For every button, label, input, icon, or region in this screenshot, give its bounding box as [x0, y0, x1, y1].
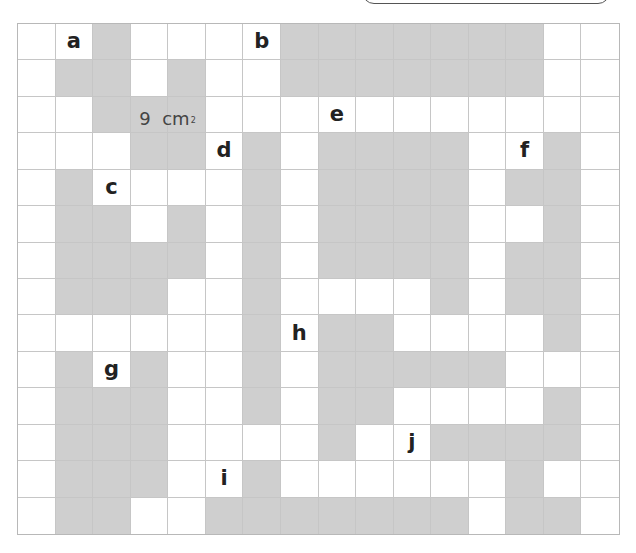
- grid-cell: [506, 315, 544, 351]
- shaded-cell: [168, 133, 206, 169]
- shaded-cell: [93, 461, 131, 497]
- grid-cell: a: [56, 24, 94, 60]
- grid-cell: [168, 24, 206, 60]
- answer-box: [362, 0, 610, 4]
- shaded-cell: [93, 388, 131, 424]
- shaded-cell: [544, 388, 582, 424]
- shaded-cell: [319, 170, 357, 206]
- grid-cell: [281, 97, 319, 133]
- shaded-cell: [431, 425, 469, 461]
- shaded-cell: [469, 425, 507, 461]
- grid-cell: e: [319, 97, 357, 133]
- grid-cell: [431, 97, 469, 133]
- grid-cell: [506, 352, 544, 388]
- shaded-cell: [56, 279, 94, 315]
- grid-cell: f: [506, 133, 544, 169]
- shaded-cell: [431, 279, 469, 315]
- shaded-cell: [93, 498, 131, 534]
- grid-cell: [469, 498, 507, 534]
- shape-label-g: g: [104, 359, 119, 380]
- grid-cell: [581, 461, 619, 497]
- grid-cell: [281, 352, 319, 388]
- shaded-cell: [131, 352, 169, 388]
- grid-cell: [469, 243, 507, 279]
- grid-cell: [544, 60, 582, 96]
- shaded-cell: [394, 352, 432, 388]
- grid-cell: [281, 425, 319, 461]
- shaded-cell: [431, 206, 469, 242]
- grid-cell: d: [206, 133, 244, 169]
- grid-cell: [581, 206, 619, 242]
- shaded-cell: [56, 425, 94, 461]
- grid-cell: [206, 24, 244, 60]
- area-value: 9: [139, 108, 150, 129]
- shaded-cell: [544, 170, 582, 206]
- grid-cell: [581, 243, 619, 279]
- grid-cell: [469, 388, 507, 424]
- shaded-cell: [431, 24, 469, 60]
- shaded-cell: [56, 243, 94, 279]
- shaded-cell: [506, 461, 544, 497]
- shape-label-b: b: [254, 31, 269, 52]
- grid-cell: [56, 133, 94, 169]
- shaded-cell: [356, 60, 394, 96]
- grid-cell: [168, 461, 206, 497]
- shaded-cell: [243, 315, 281, 351]
- grid-cell: [581, 388, 619, 424]
- shaded-cell: [281, 60, 319, 96]
- grid-cell: [506, 388, 544, 424]
- grid-cell: [18, 388, 56, 424]
- shape-label-a: a: [67, 31, 81, 52]
- grid-cell: [131, 315, 169, 351]
- shaded-cell: [206, 498, 244, 534]
- grid-cell: [206, 388, 244, 424]
- grid-cell: [206, 60, 244, 96]
- grid-cell: [131, 170, 169, 206]
- area-exponent: 2: [191, 116, 196, 125]
- shape-label-d: d: [217, 140, 232, 161]
- shape-label-j: j: [408, 432, 415, 453]
- shaded-cell: [431, 133, 469, 169]
- grid-cell: [18, 243, 56, 279]
- grid-cell: [168, 498, 206, 534]
- grid-cell: [394, 315, 432, 351]
- grid-cell: [206, 170, 244, 206]
- grid-cell: [469, 97, 507, 133]
- shaded-cell: [356, 498, 394, 534]
- grid-cell: [18, 170, 56, 206]
- grid-cell: [18, 206, 56, 242]
- shaded-cell: [319, 498, 357, 534]
- grid-cell: [93, 133, 131, 169]
- grid-cell: [18, 425, 56, 461]
- shaded-cell: [93, 279, 131, 315]
- grid-cell: [18, 352, 56, 388]
- grid-cell: [581, 24, 619, 60]
- shaded-cell: [281, 24, 319, 60]
- grid-cell: [18, 315, 56, 351]
- grid-cell: [581, 170, 619, 206]
- grid-cell: [544, 461, 582, 497]
- shaded-cell: [168, 206, 206, 242]
- shaded-cell: [356, 243, 394, 279]
- shaded-cell: [131, 388, 169, 424]
- grid-cell: [18, 461, 56, 497]
- shaded-cell: [544, 498, 582, 534]
- grid-cell: [168, 388, 206, 424]
- grid-cell: [168, 279, 206, 315]
- shaded-cell: [356, 352, 394, 388]
- shaded-cell: [544, 425, 582, 461]
- shaded-cell: [394, 24, 432, 60]
- grid-cell: b: [243, 24, 281, 60]
- grid-cell: [168, 425, 206, 461]
- grid-cell: [281, 170, 319, 206]
- shaded-cell: [93, 243, 131, 279]
- grid-cell: j: [394, 425, 432, 461]
- shape-label-i: i: [220, 468, 227, 489]
- grid-cell: [394, 461, 432, 497]
- shaded-cell: [93, 206, 131, 242]
- grid-cell: [544, 352, 582, 388]
- grid-cell: [93, 315, 131, 351]
- grid-cell: [581, 425, 619, 461]
- area-unit: cm: [162, 108, 189, 129]
- grid-cell: [581, 60, 619, 96]
